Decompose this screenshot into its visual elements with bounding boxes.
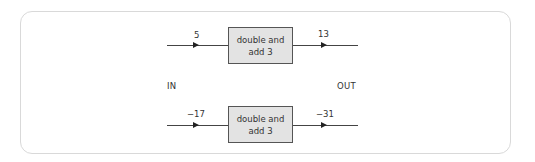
- rule-line2-bottom: add 3: [231, 125, 291, 137]
- output-arrow-icon-bottom: [321, 122, 327, 128]
- rule-box-bottom: double and add 3: [228, 106, 293, 143]
- input-arrow-icon-bottom: [193, 122, 199, 128]
- out-label: OUT: [337, 81, 356, 91]
- rule-line2-top: add 3: [231, 46, 291, 58]
- rule-box-top: double and add 3: [228, 27, 293, 64]
- output-arrow-icon-top: [321, 42, 327, 48]
- output-value-top: 13: [318, 29, 329, 39]
- input-value-top: 5: [194, 30, 199, 40]
- output-value-bottom: −31: [316, 109, 334, 119]
- rule-line1-bottom: double and: [231, 113, 291, 125]
- in-label: IN: [167, 81, 176, 91]
- input-value-bottom: −17: [187, 109, 205, 119]
- rule-line1-top: double and: [231, 34, 291, 46]
- input-arrow-icon-top: [193, 42, 199, 48]
